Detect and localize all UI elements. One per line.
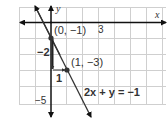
x-tick-3: 3 bbox=[98, 25, 104, 35]
y-tick-neg5: −5 bbox=[35, 96, 46, 106]
point-label-1-neg3: (1, −3) bbox=[71, 57, 103, 68]
rise-label: −2 bbox=[37, 47, 50, 58]
point-label-0-neg1: (0, −1) bbox=[54, 25, 86, 36]
run-label: 1 bbox=[56, 73, 62, 84]
y-axis-label: y bbox=[56, 4, 60, 14]
x-axis-label: x bbox=[155, 10, 159, 20]
point-1-neg3 bbox=[64, 67, 69, 72]
point-0-neg1 bbox=[48, 35, 53, 40]
equation-label: 2x + y = −1 bbox=[84, 87, 140, 98]
